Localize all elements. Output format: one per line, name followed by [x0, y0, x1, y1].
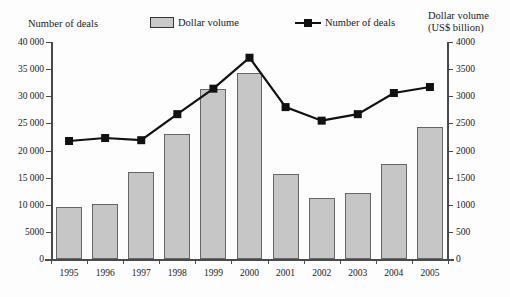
x-axis-tick-label: 2001 [266, 268, 306, 279]
bar [273, 174, 299, 259]
left-axis-title: Number of deals [28, 18, 98, 30]
bar [309, 198, 335, 259]
bar [237, 73, 263, 259]
x-axis [45, 259, 454, 261]
x-axis-tick [51, 259, 52, 264]
y-axis-right-tick-label: 1000 [456, 200, 475, 210]
y-axis-right-tick-label: 3500 [456, 64, 475, 74]
bar-swatch-icon [150, 17, 174, 28]
y-axis-left-tick-label: 0 [0, 254, 44, 264]
x-axis-tick [412, 259, 413, 264]
x-axis-tick [340, 259, 341, 264]
bar [345, 193, 371, 259]
right-axis-title: Dollar volume (US$ billion) [428, 10, 489, 34]
y-axis-right-tick [448, 205, 453, 206]
y-axis-right-tick-label: 500 [456, 227, 470, 237]
x-axis-tick-label: 2004 [374, 268, 414, 279]
bar [200, 89, 226, 259]
x-axis-tick-label: 1997 [121, 268, 161, 279]
y-axis-right-tick [448, 178, 453, 179]
x-axis-tick-label: 2003 [338, 268, 378, 279]
x-axis-tick [87, 259, 88, 264]
y-axis-right-tick [448, 96, 453, 97]
line-marker-swatch-icon [295, 18, 321, 27]
y-axis-right-tick-label: 2000 [456, 146, 475, 156]
x-axis-tick-label: 2000 [230, 268, 270, 279]
y-axis-left-tick-label: 30 000 [0, 91, 44, 101]
x-axis-tick-label: 1996 [85, 268, 125, 279]
x-axis-tick-label: 2005 [410, 268, 450, 279]
x-axis-tick-label: 1995 [49, 268, 89, 279]
x-axis-tick [448, 259, 449, 264]
y-axis-right-tick-label: 3000 [456, 91, 475, 101]
y-axis-left-tick-label: 20 000 [0, 146, 44, 156]
y-axis-left-tick-label: 40 000 [0, 37, 44, 47]
bar-series-dollar-volume [51, 42, 448, 259]
x-axis-tick [376, 259, 377, 264]
bar [128, 172, 154, 259]
right-axis-title-line1: Dollar volume [428, 10, 489, 22]
y-axis-right-tick-label: 0 [456, 254, 461, 264]
y-axis-right-tick [448, 69, 453, 70]
x-axis-tick [123, 259, 124, 264]
bar [164, 134, 190, 259]
y-axis-right-tick-label: 2500 [456, 118, 475, 128]
x-axis-tick [268, 259, 269, 264]
chart-figure: Number of deals Dollar volume (US$ billi… [0, 0, 510, 297]
legend-label-dollar-volume: Dollar volume [178, 17, 239, 28]
y-axis-right-tick [448, 123, 453, 124]
y-axis-right-tick [448, 42, 453, 43]
x-axis-tick-label: 1999 [193, 268, 233, 279]
x-axis-tick-label: 2002 [302, 268, 342, 279]
legend-item-number-of-deals: Number of deals [295, 17, 395, 28]
bar [92, 204, 118, 259]
bar [381, 164, 407, 259]
chart-legend: Dollar volume Number of deals [150, 17, 410, 31]
x-axis-tick [304, 259, 305, 264]
y-axis-right-tick-label: 4000 [456, 37, 475, 47]
bar [417, 127, 443, 259]
y-axis-left-tick-label: 10 000 [0, 200, 44, 210]
right-axis-title-line2: (US$ billion) [428, 22, 489, 34]
x-axis-tick [231, 259, 232, 264]
y-axis-right-tick-label: 1500 [456, 173, 475, 183]
y-axis-left-tick-label: 5000 [0, 227, 44, 237]
y-axis-right-tick [448, 151, 453, 152]
x-axis-tick [159, 259, 160, 264]
bar [56, 207, 82, 259]
y-axis-left-tick-label: 15 000 [0, 173, 44, 183]
x-axis-tick-label: 1998 [157, 268, 197, 279]
x-axis-tick [195, 259, 196, 264]
y-axis-right-tick [448, 232, 453, 233]
legend-item-dollar-volume: Dollar volume [150, 17, 239, 28]
y-axis-left-tick-label: 35 000 [0, 64, 44, 74]
y-axis-left-tick-label: 25 000 [0, 118, 44, 128]
legend-label-number-of-deals: Number of deals [325, 17, 395, 28]
